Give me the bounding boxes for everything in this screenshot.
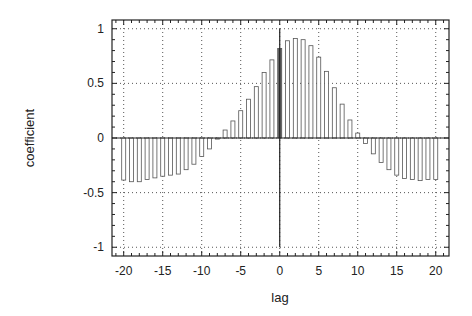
y-tick-label: 0.5 xyxy=(87,76,104,90)
bar-lag-19 xyxy=(426,138,430,180)
bar-lag--15 xyxy=(161,138,165,176)
x-tick-label: 20 xyxy=(429,264,443,278)
bar-lag--6 xyxy=(231,121,235,138)
bar-lag--14 xyxy=(169,138,173,175)
bar-lag--1 xyxy=(270,60,274,138)
bar-lag--4 xyxy=(247,99,251,138)
x-tick-label: 5 xyxy=(315,264,322,278)
bar-lag--19 xyxy=(130,138,134,182)
bar-lag-20 xyxy=(434,138,438,180)
y-tick-label: 1 xyxy=(97,22,104,36)
y-tick-label: 0 xyxy=(97,131,104,145)
y-tick-label: -1 xyxy=(93,240,104,254)
bar-lag--7 xyxy=(223,130,227,138)
bar-lag-2 xyxy=(293,39,297,138)
x-tick-label: -5 xyxy=(235,264,246,278)
y-tick-label: -0.5 xyxy=(83,186,104,200)
bar-lag--13 xyxy=(176,138,180,174)
bar-lag-17 xyxy=(410,138,414,180)
x-tick-label: 10 xyxy=(351,264,365,278)
bar-lag--16 xyxy=(153,138,157,178)
bar-lag-15 xyxy=(395,138,399,175)
x-tick-label: -15 xyxy=(154,264,172,278)
bar-lag--9 xyxy=(208,138,212,149)
bar-lag-16 xyxy=(403,138,407,178)
bar-lag--3 xyxy=(254,87,258,138)
x-tick-label: -10 xyxy=(193,264,211,278)
bar-lag--20 xyxy=(122,138,126,180)
bar-lag-3 xyxy=(301,40,305,138)
bar-lag--12 xyxy=(184,138,188,170)
bar-lag-4 xyxy=(309,46,313,138)
bar-lag-8 xyxy=(340,104,344,138)
bar-lag-18 xyxy=(418,138,422,181)
x-tick-label: 15 xyxy=(390,264,404,278)
bar-lag--5 xyxy=(239,111,243,138)
bar-lag-5 xyxy=(317,57,321,138)
bar-lag-12 xyxy=(371,138,375,154)
bar-lag--10 xyxy=(200,138,204,157)
acf-chart: -20-15-10-505101520 10.50-0.5-1 lag coef… xyxy=(0,0,472,316)
x-tick-label: 0 xyxy=(276,264,283,278)
bar-lag-11 xyxy=(364,138,368,143)
bar-lag--17 xyxy=(145,138,149,180)
bar-lag-10 xyxy=(356,133,360,138)
x-tick-label: -20 xyxy=(115,264,133,278)
y-axis-label: coefficient xyxy=(22,108,37,167)
bar-lag-14 xyxy=(387,138,391,170)
bar-lag-6 xyxy=(325,71,329,138)
bar-lag-7 xyxy=(332,88,336,138)
bar-lag--2 xyxy=(262,72,266,138)
bar-lag--18 xyxy=(137,138,141,182)
bar-lag-1 xyxy=(286,41,290,138)
x-axis-label: lag xyxy=(271,290,288,305)
bar-lag-9 xyxy=(348,120,352,138)
bar-lag-13 xyxy=(379,138,383,163)
bar-lag--11 xyxy=(192,138,196,164)
